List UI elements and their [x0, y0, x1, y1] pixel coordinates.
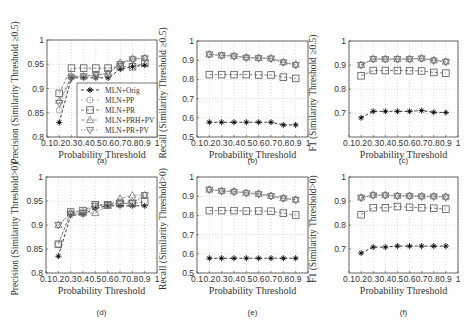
y-tick-label: 0.5 — [182, 268, 194, 278]
subplot-a: 0.10.20.30.40.50.60.70.80.910.80.850.90.… — [10, 21, 160, 165]
x-tick-label: 0.9 — [290, 138, 302, 148]
x-tick-label: 0.2 — [355, 274, 367, 284]
y-axis-label: Recall (Similarity Threshold ≥0.5) — [158, 27, 169, 158]
subplot-caption: (b) — [248, 156, 258, 165]
x-tick-label: 0.7 — [265, 274, 277, 284]
y-tick-label: 0.8 — [31, 268, 43, 278]
x-tick-label: 0.4 — [77, 274, 89, 284]
y-tick-label: 1 — [38, 172, 43, 182]
y-tick-label: 0.9 — [334, 60, 346, 70]
x-tick-label: 0.8 — [428, 274, 440, 284]
x-tick-label: 0.9 — [139, 138, 151, 148]
x-tick-label: 0.5 — [240, 274, 252, 284]
axes-frame — [46, 177, 157, 273]
series-mln-pr — [206, 207, 299, 218]
x-tick-label: 0.8 — [277, 138, 289, 148]
axes-frame — [197, 41, 308, 137]
y-tick-label: 0.85 — [26, 244, 43, 254]
series-mln-orig — [358, 243, 449, 256]
x-tick-label: 0.2 — [203, 274, 215, 284]
y-tick-label: 0.8 — [182, 74, 194, 84]
y-tick-label: 0.9 — [182, 55, 194, 65]
y-tick-label: 0.7 — [182, 230, 194, 240]
x-tick-label: 0.9 — [139, 274, 151, 284]
subplot-caption: (d) — [97, 308, 107, 317]
subplot-f: 0.10.20.30.40.50.60.70.80.910.70.80.91Pr… — [308, 172, 461, 317]
y-tick-label: 0.8 — [334, 84, 346, 94]
x-tick-label: 0.9 — [440, 138, 452, 148]
y-axis-label: Precision (Similarity Threshold>0) — [10, 163, 21, 296]
legend: MLN+OrigMLN+PPMLN+PRMLN+PRH+PVMLN+PR+PV — [77, 83, 157, 137]
y-tick-label: 0.7 — [334, 244, 346, 254]
x-tick-label: 0.4 — [379, 274, 391, 284]
y-tick-label: 0.9 — [334, 196, 346, 206]
y-tick-label: 0.8 — [182, 210, 194, 220]
x-axis-label: Probability Threshold — [209, 285, 296, 296]
x-tick-label: 0.9 — [290, 274, 302, 284]
x-axis-label: Probability Threshold — [58, 285, 145, 296]
y-tick-label: 0.85 — [27, 108, 44, 118]
legend-item-label: MLN+PRH+PV — [105, 116, 155, 125]
x-tick-label: 0.3 — [367, 138, 379, 148]
y-tick-label: 1 — [341, 172, 346, 182]
legend-item-label: MLN+Orig — [105, 86, 140, 95]
x-tick-label: 0.6 — [102, 274, 114, 284]
figure-canvas: 0.10.20.30.40.50.60.70.80.910.80.850.90.… — [0, 0, 473, 330]
series-mln-pr — [358, 67, 449, 79]
series-mln-pr — [206, 71, 299, 81]
x-tick-label: 0.6 — [102, 138, 114, 148]
x-tick-label: 0.2 — [53, 138, 65, 148]
grid — [349, 177, 458, 273]
y-tick-label: 0.6 — [182, 249, 194, 259]
x-tick-label: 0.3 — [216, 138, 228, 148]
x-tick-label: 0.5 — [392, 274, 404, 284]
x-tick-label: 0.4 — [78, 138, 90, 148]
grid — [46, 177, 157, 273]
y-axis-label: Recall (Similarity Threshold>0) — [158, 168, 169, 290]
y-tick-label: 1 — [341, 36, 346, 46]
x-tick-label: 0.6 — [404, 274, 416, 284]
x-tick-label: 0.1 — [343, 274, 355, 284]
x-tick-label: 0.5 — [90, 138, 102, 148]
x-tick-label: 0.2 — [203, 138, 215, 148]
legend-item-label: MLN+PP — [105, 96, 134, 105]
x-tick-label: 0.3 — [66, 138, 78, 148]
x-tick-label: 0.7 — [416, 138, 428, 148]
y-tick-label: 0.7 — [334, 108, 346, 118]
x-tick-label: 0.2 — [52, 274, 64, 284]
x-tick-label: 0.3 — [367, 274, 379, 284]
x-tick-label: 0.6 — [404, 138, 416, 148]
x-tick-label: 1 — [456, 274, 461, 284]
x-tick-label: 0.4 — [228, 138, 240, 148]
x-tick-label: 0.7 — [114, 138, 126, 148]
y-axis-label: F1 (Similarity Threshold ≥0.5) — [308, 35, 319, 152]
y-tick-label: 0.8 — [32, 132, 44, 142]
subplot-d: 0.10.20.30.40.50.60.70.80.910.80.850.90.… — [10, 163, 160, 317]
x-tick-label: 0.8 — [126, 274, 138, 284]
y-tick-label: 0.6 — [182, 113, 194, 123]
y-tick-label: 1 — [189, 172, 194, 182]
y-tick-label: 0.95 — [27, 59, 44, 69]
x-tick-label: 0.6 — [253, 138, 265, 148]
x-tick-label: 0.5 — [392, 138, 404, 148]
x-tick-label: 0.6 — [253, 274, 265, 284]
y-tick-label: 1 — [39, 35, 44, 45]
series-mln-pr — [358, 203, 449, 218]
series-mln-orig — [206, 119, 298, 128]
x-tick-label: 0.4 — [379, 138, 391, 148]
x-tick-label: 0.5 — [240, 138, 252, 148]
y-tick-label: 0.9 — [32, 84, 44, 94]
x-tick-label: 1 — [456, 138, 461, 148]
y-tick-label: 0.8 — [334, 220, 346, 230]
x-tick-label: 0.3 — [216, 274, 228, 284]
y-axis-label: F1 (Similarity Threshold>0) — [308, 175, 319, 283]
x-tick-label: 0.5 — [89, 274, 101, 284]
x-tick-label: 0.4 — [228, 274, 240, 284]
series-mln-orig — [206, 255, 298, 261]
y-tick-label: 0.7 — [182, 94, 194, 104]
grid — [197, 41, 308, 137]
x-tick-label: 0.7 — [416, 274, 428, 284]
subplot-caption: (c) — [399, 156, 409, 165]
subplot-e: 0.10.20.30.40.50.60.70.80.910.50.60.70.8… — [158, 168, 311, 317]
y-tick-label: 0.9 — [31, 220, 43, 230]
